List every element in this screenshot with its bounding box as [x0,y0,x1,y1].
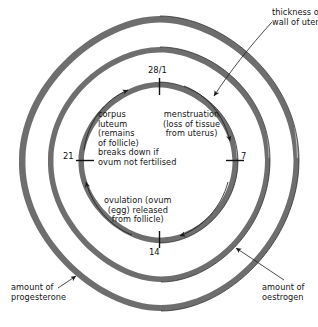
day-label-21: 21 [63,152,74,161]
outer-boundary-arc [160,16,299,311]
day-label-28-1: 28/1 [148,66,167,75]
label-ovulation: ovulation (ovum (egg) released from foll… [104,196,172,225]
label-thickness-of-wall-of-uterus: thickness of wall of uterus [272,8,318,27]
middle-boundary-arc [160,47,270,282]
day-label-7: 7 [241,152,246,161]
label-amount-of-oestrogen: amount of oestrogen [262,283,305,302]
label-amount-of-progesterone: amount of progesterone [11,283,66,302]
label-menstruation: menstruation (loss of tissue from uterus… [163,110,220,139]
day-label-14: 14 [149,248,160,257]
menstrual-cycle-diagram: 28/1 7 14 21 corpus luteum (remains of f… [0,0,318,327]
leader-thickness-of-wall [214,22,272,96]
